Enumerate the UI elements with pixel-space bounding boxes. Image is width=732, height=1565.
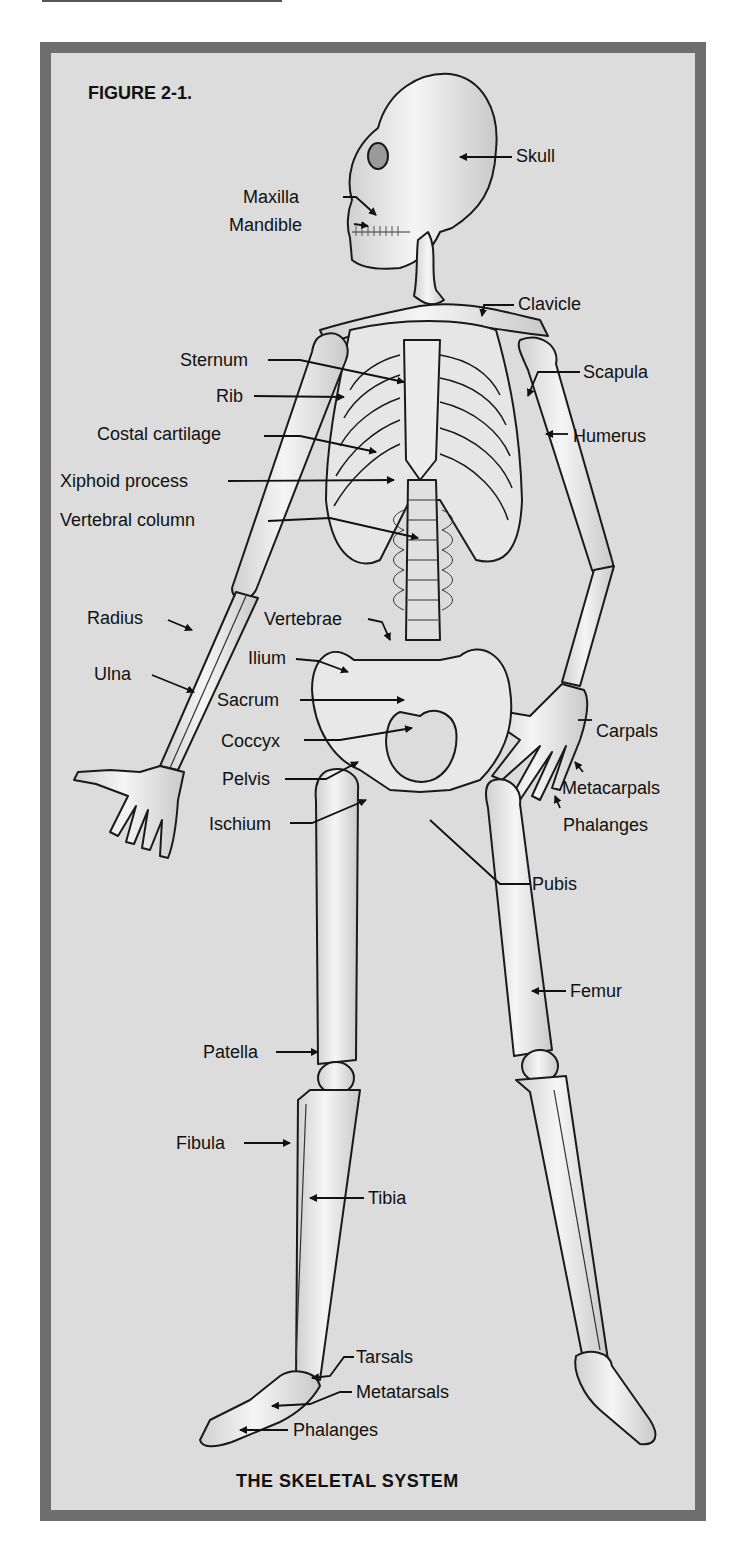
tibia-left — [296, 1090, 360, 1382]
label-pubis: Pubis — [532, 874, 577, 894]
label-vertebral-column: Vertebral column — [60, 510, 195, 530]
label-pelvis: Pelvis — [222, 769, 270, 789]
label-fibula: Fibula — [176, 1133, 225, 1153]
label-phalanges-foot: Phalanges — [293, 1420, 378, 1440]
tibia-right — [516, 1076, 608, 1364]
figure-title: FIGURE 2-1. — [88, 83, 192, 104]
label-tarsals: Tarsals — [356, 1347, 413, 1367]
label-phalanges-hand: Phalanges — [563, 815, 648, 835]
label-scapula: Scapula — [583, 362, 648, 382]
forearm-right — [562, 566, 614, 686]
label-metacarpals: Metacarpals — [562, 778, 660, 798]
hand-left — [74, 766, 184, 858]
cervical-spine — [414, 232, 444, 304]
label-sacrum: Sacrum — [217, 690, 279, 710]
label-metatarsals: Metatarsals — [356, 1382, 449, 1402]
label-clavicle: Clavicle — [518, 294, 581, 314]
label-carpals: Carpals — [596, 721, 658, 741]
label-vertebrae: Vertebrae — [264, 609, 342, 629]
figure-caption: THE SKELETAL SYSTEM — [236, 1471, 459, 1492]
label-ischium: Ischium — [209, 814, 271, 834]
label-costal-cartilage: Costal cartilage — [97, 424, 221, 444]
label-radius: Radius — [87, 608, 143, 628]
label-femur: Femur — [570, 981, 622, 1001]
label-patella: Patella — [203, 1042, 258, 1062]
label-xiphoid-process: Xiphoid process — [60, 471, 188, 491]
label-coccyx: Coccyx — [221, 731, 280, 751]
label-rib: Rib — [216, 386, 243, 406]
label-humerus: Humerus — [573, 426, 646, 446]
label-maxilla: Maxilla — [243, 187, 299, 207]
label-mandible: Mandible — [229, 215, 302, 235]
label-ilium: Ilium — [248, 648, 286, 668]
label-tibia: Tibia — [368, 1188, 406, 1208]
label-ulna: Ulna — [94, 664, 131, 684]
foot-right — [575, 1352, 655, 1444]
femur-right — [486, 779, 552, 1056]
sternum-shape — [404, 340, 440, 480]
label-skull: Skull — [516, 146, 555, 166]
label-sternum: Sternum — [180, 350, 248, 370]
skeleton-bones — [74, 74, 655, 1446]
